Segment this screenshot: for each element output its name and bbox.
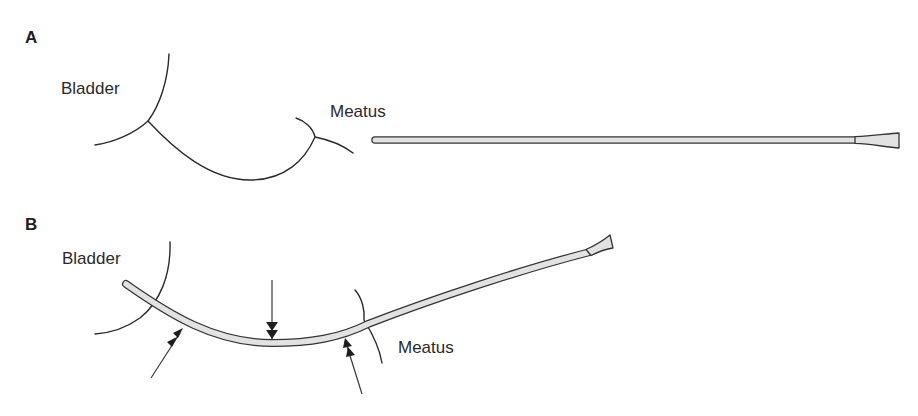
panel-b-meatus-label: Meatus bbox=[398, 338, 454, 357]
arrow-bladder-neck bbox=[151, 328, 183, 378]
arrow-mid-urethra bbox=[266, 280, 278, 339]
panel-a-bladder-label: Bladder bbox=[61, 79, 120, 98]
panel-a-urethra bbox=[148, 121, 315, 180]
panel-a-letter: A bbox=[25, 28, 37, 47]
panel-b: B Bladder Meatus bbox=[25, 215, 613, 394]
panel-a-catheter-flare bbox=[855, 133, 899, 148]
catheter-diagram: A Bladder Meatus B Bladder Meatus bbox=[0, 0, 918, 416]
panel-a-catheter bbox=[375, 133, 899, 148]
panel-a: A Bladder Meatus bbox=[25, 28, 899, 180]
panel-a-meatus-arc bbox=[296, 118, 353, 153]
panel-b-letter: B bbox=[25, 215, 37, 234]
panel-b-bladder-label: Bladder bbox=[62, 249, 121, 268]
arrow-meatus bbox=[343, 338, 362, 394]
panel-b-catheter bbox=[126, 235, 613, 343]
panel-b-catheter-flare bbox=[586, 235, 613, 256]
panel-a-meatus-label: Meatus bbox=[330, 102, 386, 121]
